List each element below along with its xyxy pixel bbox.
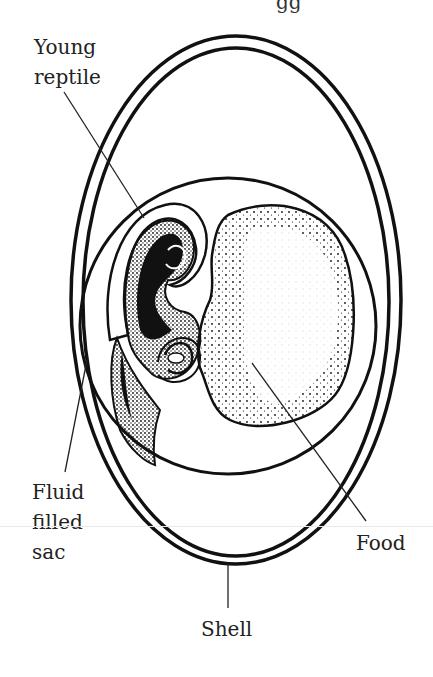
label-young-reptile: Young reptile [34, 32, 101, 92]
label-fluid-line1: Fluid [32, 477, 84, 507]
label-fluid-filled-sac: Fluid filled sac [32, 477, 84, 567]
scan-line [0, 526, 433, 527]
label-young-reptile-line2: reptile [34, 62, 101, 92]
egg-diagram [0, 0, 433, 677]
label-young-reptile-line1: Young [34, 32, 101, 62]
food-yolk [198, 205, 354, 426]
young-reptile [107, 204, 206, 465]
label-fluid-line2: filled [32, 507, 84, 537]
label-fluid-line3: sac [32, 537, 84, 567]
young-reptile-pointer [64, 92, 144, 218]
label-food: Food [356, 528, 406, 558]
label-shell: Shell [201, 614, 252, 644]
fluid-sac-pointer [65, 360, 87, 472]
